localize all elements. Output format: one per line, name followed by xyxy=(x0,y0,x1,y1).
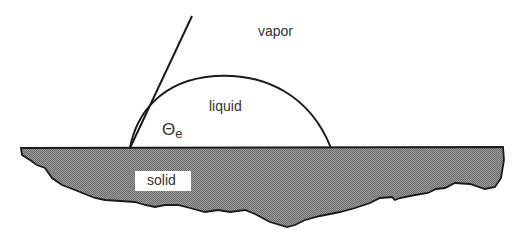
theta-symbol: Θ xyxy=(162,120,175,139)
solid-substrate xyxy=(21,147,504,227)
contact-angle-label: Θe xyxy=(162,120,182,141)
vapor-label: vapor xyxy=(258,23,293,39)
solid-label: solid xyxy=(147,172,176,188)
contact-angle-diagram: vapor liquid Θe solid xyxy=(0,0,521,240)
liquid-label: liquid xyxy=(209,98,242,114)
theta-subscript: e xyxy=(175,126,182,141)
